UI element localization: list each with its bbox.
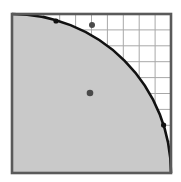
dot-on-curve-top — [53, 18, 58, 23]
dot-on-curve-right — [161, 122, 166, 127]
dot-outside-region — [89, 22, 95, 28]
dot-inside-region — [87, 90, 94, 97]
quarter-circle-diagram — [0, 0, 181, 182]
